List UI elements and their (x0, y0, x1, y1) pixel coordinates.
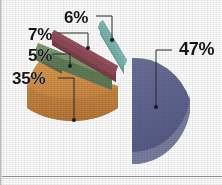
pie-label-7: 7% (28, 26, 52, 43)
pie-slice-47 (132, 56, 190, 164)
pie-label-35: 35% (12, 70, 45, 87)
leader-dot-47 (154, 105, 158, 109)
leader-dot-35 (72, 118, 76, 122)
leader-dot-5 (68, 64, 72, 68)
pie-chart-figure: 47% 6% 7% 5% 35% (0, 0, 222, 185)
bottom-divider-rule-shadow (2, 178, 222, 179)
bottom-divider-rule (2, 176, 222, 177)
pie-label-47: 47% (179, 40, 214, 58)
leader-line-47 (156, 50, 172, 57)
pie-label-6: 6% (64, 9, 88, 26)
pie-label-5: 5% (28, 47, 52, 64)
leader-dot-7 (86, 46, 90, 50)
leader-dot-6 (110, 38, 114, 42)
